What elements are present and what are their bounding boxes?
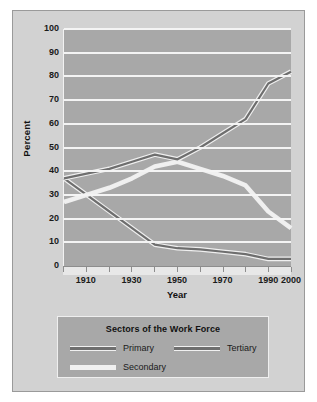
x-tick-mark [131, 267, 132, 272]
gridline [64, 28, 291, 30]
x-tick-mark [268, 267, 269, 272]
legend-item-tertiary: Tertiary [174, 342, 257, 354]
legend-title: Sectors of the Work Force [58, 324, 268, 334]
y-tick-label: 0 [33, 260, 59, 270]
y-tick-label: 50 [33, 142, 59, 152]
chart-legend: Sectors of the Work Force Primary Tertia… [57, 316, 269, 378]
legend-label-primary: Primary [123, 343, 154, 353]
x-tick-mark [109, 267, 110, 272]
x-axis [63, 266, 291, 275]
legend-label-secondary: Secondary [123, 362, 166, 372]
x-tick-label: 1950 [167, 275, 187, 285]
y-tick-label: 30 [33, 189, 59, 199]
x-tick-mark [245, 267, 246, 272]
y-tick-label: 100 [33, 23, 59, 33]
x-axis-title: Year [63, 289, 291, 300]
x-tick-label: 1970 [213, 275, 233, 285]
legend-swatch-tertiary [174, 346, 220, 351]
chart-plot-region: Percent 0102030405060708090100 Year 1910… [13, 11, 306, 301]
y-tick-label: 40 [33, 165, 59, 175]
gridline [64, 241, 291, 243]
chart-figure: Percent 0102030405060708090100 Year 1910… [12, 10, 305, 392]
x-tick-label: 1910 [76, 275, 96, 285]
y-axis-tick-labels: 0102030405060708090100 [29, 29, 59, 266]
y-tick-label: 80 [33, 70, 59, 80]
x-tick-mark [177, 267, 178, 272]
x-tick-mark [223, 267, 224, 272]
y-tick-label: 20 [33, 213, 59, 223]
x-tick-label: 1930 [121, 275, 141, 285]
legend-swatch-secondary [70, 365, 116, 370]
x-tick-label: 2000 [281, 275, 301, 285]
gridline [64, 52, 291, 54]
x-tick-mark [154, 267, 155, 272]
x-tick-label: 1990 [258, 275, 278, 285]
legend-item-primary: Primary [70, 342, 154, 354]
y-tick-label: 90 [33, 47, 59, 57]
gridline [64, 147, 291, 149]
y-tick-label: 70 [33, 94, 59, 104]
legend-swatch-primary [70, 346, 116, 351]
gridline [64, 194, 291, 196]
x-tick-mark [291, 267, 292, 272]
x-tick-mark [200, 267, 201, 272]
plot-area [63, 29, 291, 266]
gridline [64, 99, 291, 101]
x-tick-mark [63, 267, 64, 272]
y-tick-label: 60 [33, 118, 59, 128]
legend-item-secondary: Secondary [70, 361, 166, 373]
gridline [64, 170, 291, 172]
y-tick-label: 10 [33, 236, 59, 246]
gridline [64, 218, 291, 220]
gridline [64, 123, 291, 125]
gridline [64, 75, 291, 77]
legend-label-tertiary: Tertiary [227, 343, 257, 353]
x-tick-mark [86, 267, 87, 272]
